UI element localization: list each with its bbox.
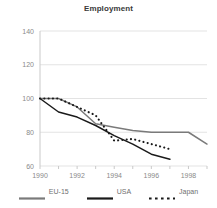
x-tick-label: 1996 bbox=[144, 172, 160, 179]
legend-item-usa[interactable]: USA bbox=[87, 188, 131, 195]
legend-item-eu-15[interactable]: EU-15 bbox=[19, 188, 69, 195]
legend-swatch-japan bbox=[149, 188, 175, 195]
series-line-eu-15 bbox=[40, 99, 207, 145]
legend-label-eu-15: EU-15 bbox=[49, 188, 69, 195]
x-tick-label: 1990 bbox=[32, 172, 48, 179]
legend-item-japan[interactable]: Japan bbox=[149, 188, 198, 195]
legend-label-japan: Japan bbox=[179, 188, 198, 195]
chart-legend: EU-15 USA Japan bbox=[0, 188, 217, 195]
series-line-japan bbox=[40, 99, 170, 150]
y-axis-tick-labels: 6080100120140 bbox=[22, 28, 34, 170]
data-series-lines bbox=[40, 99, 207, 160]
gridlines bbox=[40, 31, 207, 166]
employment-chart: Employment 6080100120140 199019921994199… bbox=[0, 0, 217, 208]
y-tick-label: 60 bbox=[26, 163, 34, 170]
x-axis-tick-labels: 19901992199419961998 bbox=[32, 172, 196, 179]
chart-plot-area: 6080100120140 19901992199419961998 bbox=[0, 0, 217, 208]
x-tick-label: 1994 bbox=[106, 172, 122, 179]
y-tick-label: 140 bbox=[22, 28, 34, 35]
y-tick-label: 100 bbox=[22, 95, 34, 102]
y-tick-label: 80 bbox=[26, 129, 34, 136]
series-line-usa bbox=[40, 99, 170, 160]
y-tick-label: 120 bbox=[22, 61, 34, 68]
legend-swatch-eu-15 bbox=[19, 188, 45, 195]
legend-label-usa: USA bbox=[117, 188, 131, 195]
x-tick-label: 1992 bbox=[69, 172, 85, 179]
legend-swatch-usa bbox=[87, 188, 113, 195]
x-tick-label: 1998 bbox=[181, 172, 197, 179]
